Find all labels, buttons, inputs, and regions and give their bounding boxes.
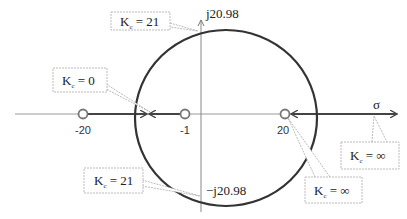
- imag-bottom-label: −j20.98: [206, 183, 246, 198]
- sigma-label: σ: [373, 97, 380, 112]
- callout-top-crossing: Kc = 21: [111, 12, 198, 31]
- svg-text:Kc = 0: Kc = 0: [62, 73, 95, 90]
- pole-marker-minus1: [181, 110, 190, 119]
- label-minus1: -1: [180, 124, 190, 136]
- root-locus-canvas: -20 -1 20 j20.98 −j20.98 σ Kc = 21 Kc = …: [0, 0, 407, 219]
- root-locus-diagram: -20 -1 20 j20.98 −j20.98 σ Kc = 21 Kc = …: [0, 0, 407, 219]
- imag-top-label: j20.98: [205, 6, 239, 21]
- svg-text:Kc = 21: Kc = 21: [120, 14, 159, 31]
- svg-text:Kc = 21: Kc = 21: [94, 173, 133, 190]
- zero-marker-minus20: [79, 110, 88, 119]
- callout-right-infinity: Kc = ∞: [341, 116, 399, 169]
- svg-text:Kc = ∞: Kc = ∞: [314, 183, 350, 200]
- locus-circle: [135, 30, 317, 206]
- callout-bottom-crossing: Kc = 21: [84, 168, 200, 196]
- zero-marker-20: [281, 110, 290, 119]
- svg-text:Kc = ∞: Kc = ∞: [350, 148, 386, 165]
- label-20: 20: [277, 124, 289, 136]
- label-minus20: -20: [75, 124, 91, 136]
